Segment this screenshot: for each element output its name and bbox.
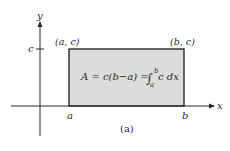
figure-caption: (a) (120, 123, 134, 134)
integral-lower-limit: a (150, 81, 154, 89)
corner-label-top-left: (a, c) (55, 36, 80, 47)
area-formula: A = c(b−a) = (80, 71, 149, 82)
x-axis-label: x (217, 100, 223, 111)
y-axis-label: y (36, 10, 43, 21)
x-tick-label-b: b (182, 110, 188, 121)
corner-label-top-right: (b, c) (170, 36, 195, 47)
integrand: c dx (158, 71, 179, 82)
formula-lhs: A = c(b−a) = (80, 71, 149, 82)
area-diagram: y x c a b (a, c) (b, c) A = c(b−a) = ∫ b… (0, 0, 230, 151)
y-tick-label-c: c (28, 43, 34, 54)
x-tick-label-a: a (67, 110, 73, 121)
